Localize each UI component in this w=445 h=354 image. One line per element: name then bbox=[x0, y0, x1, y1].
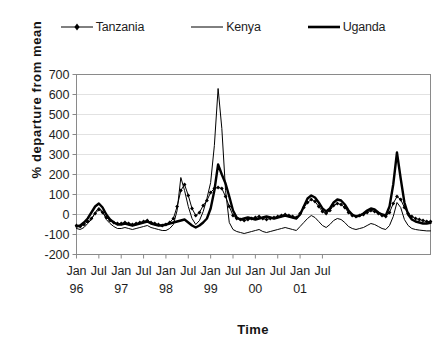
data-point-marker bbox=[265, 218, 269, 222]
data-point-marker bbox=[421, 219, 425, 223]
data-point-marker bbox=[220, 187, 224, 191]
y-tick-label: 300 bbox=[49, 148, 70, 162]
x-tick-label-year: 97 bbox=[114, 282, 128, 296]
x-tick-label-month: Jul bbox=[180, 264, 196, 278]
x-tick-label-month: Jul bbox=[91, 264, 107, 278]
y-tick-label: 200 bbox=[49, 168, 70, 182]
y-tick-label: 700 bbox=[49, 68, 70, 82]
x-tick-label-year: 98 bbox=[159, 282, 173, 296]
x-tick-label-month: Jan bbox=[66, 264, 86, 278]
data-point-marker bbox=[417, 218, 421, 222]
y-tick-label: -200 bbox=[44, 248, 69, 262]
y-tick-label: 600 bbox=[49, 88, 70, 102]
y-tick-label: 100 bbox=[49, 188, 70, 202]
data-point-marker bbox=[391, 202, 395, 206]
x-tick-labels: Jan96JulJan97JulJan98JulJan99JulJan00Jul… bbox=[66, 264, 330, 296]
y-tick-labels: -200-1000100200300400500600700 bbox=[44, 68, 69, 262]
x-tick-label-month: Jan bbox=[201, 264, 221, 278]
plot-area: -200-1000100200300400500600700 Jan96JulJ… bbox=[0, 0, 445, 354]
x-tick-label-month: Jul bbox=[270, 264, 286, 278]
data-point-marker bbox=[216, 186, 220, 190]
x-tick-label-month: Jul bbox=[136, 264, 152, 278]
x-tick-label-month: Jul bbox=[314, 264, 330, 278]
y-tick-label: 500 bbox=[49, 108, 70, 122]
x-tick-label-month: Jul bbox=[225, 264, 241, 278]
x-tick-label-month: Jan bbox=[156, 264, 176, 278]
x-tick-label-year: 00 bbox=[248, 282, 262, 296]
x-tick-marks bbox=[77, 255, 323, 259]
data-series-layer bbox=[75, 89, 433, 234]
y-tick-label: -100 bbox=[44, 228, 69, 242]
chart-figure: Tanzania Kenya Uganda % departure from m… bbox=[0, 0, 445, 354]
series-markers-tanzania bbox=[75, 183, 433, 229]
y-tick-label: 400 bbox=[49, 128, 70, 142]
x-tick-label-year: 96 bbox=[70, 282, 84, 296]
data-point-marker bbox=[335, 202, 339, 206]
x-tick-label-year: 01 bbox=[293, 282, 307, 296]
x-tick-label-month: Jan bbox=[290, 264, 310, 278]
x-tick-label-month: Jan bbox=[245, 264, 265, 278]
x-tick-label-year: 99 bbox=[204, 282, 218, 296]
x-tick-label-month: Jan bbox=[111, 264, 131, 278]
gridlines bbox=[77, 75, 431, 255]
series-line-uganda bbox=[77, 153, 431, 228]
plot-frame bbox=[77, 75, 431, 255]
data-point-marker bbox=[190, 207, 194, 211]
y-tick-label: 0 bbox=[63, 208, 70, 222]
